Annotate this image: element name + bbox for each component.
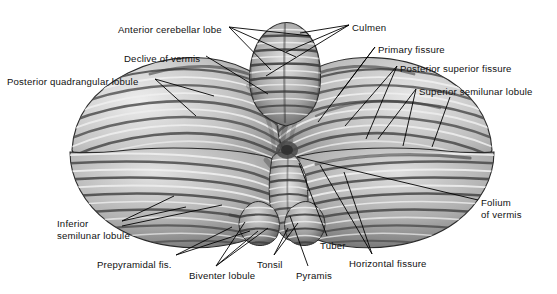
label-declive-of-vermis: Declive of vermis [124, 53, 200, 65]
label-superior-semilunar-lobule: Superior semilunar lobule [419, 86, 533, 98]
label-posterior-quadrangular-lobule: Posterior quadrangular lobule [7, 76, 138, 88]
label-anterior-cerebellar-lobe: Anterior cerebellar lobe [118, 24, 222, 36]
label-inferior-semilunar-lobule: Inferior semilunar lobule [57, 218, 130, 241]
label-tuber: Tuber [320, 240, 346, 252]
label-prepyramidal-fis: Prepyramidal fis. [97, 259, 172, 271]
label-tonsil: Tonsil [257, 259, 283, 271]
label-horizontal-fissure: Horizontal fissure [349, 258, 427, 270]
region-vermis-hilum [276, 141, 298, 159]
label-folium-of-vermis: Folium of vermis [481, 197, 522, 220]
label-pyramis: Pyramis [296, 270, 332, 282]
label-biventer-lobule: Biventer lobule [189, 270, 255, 282]
label-posterior-superior-fissure: Posterior superior fissure [400, 63, 512, 75]
label-culmen: Culmen [352, 22, 386, 34]
cerebellum-figure: Anterior cerebellar lobeCulmenDeclive of… [0, 0, 557, 294]
label-primary-fissure: Primary fissure [378, 44, 445, 56]
cerebellum-illustration [0, 0, 557, 294]
